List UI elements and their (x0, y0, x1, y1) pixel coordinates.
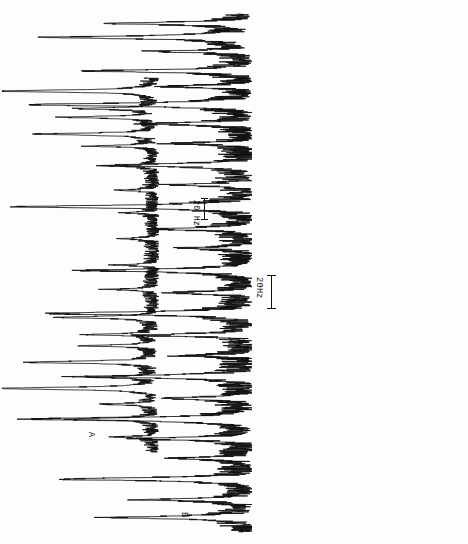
scale-bar-a (204, 198, 205, 220)
spectra-figure (0, 0, 420, 544)
scale-bar-b (271, 275, 272, 309)
trace-path-b (10, 14, 252, 532)
panel-letter-a: A (86, 432, 96, 437)
scale-bar-label-b: 20Hz (254, 277, 264, 299)
spectrum-trace-b (0, 0, 420, 544)
scanned-page: 20 Hz 20Hz A B Figure 5. Spectra of pyri… (0, 0, 468, 544)
scale-bar-label-a: 20 Hz (192, 200, 201, 226)
panel-letter-b: B (179, 512, 189, 517)
